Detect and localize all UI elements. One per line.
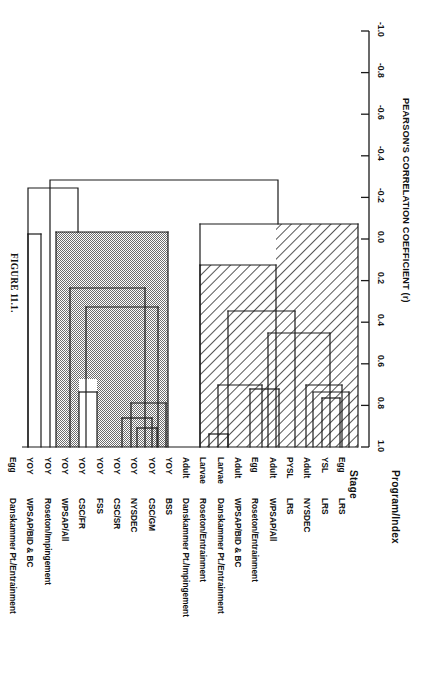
figure-container: -1.0 -0.8 -0.6 -0.4 -0.2 0.0 0.2 0.4 0.6… bbox=[0, 0, 425, 683]
axis-group bbox=[361, 31, 369, 447]
column-header-stage: Stage bbox=[348, 470, 358, 499]
leaf-program-label: BSS bbox=[165, 498, 173, 515]
tick-label: 0.0 bbox=[376, 231, 385, 243]
leaf-program-label: Roseton/Entrainment bbox=[199, 498, 207, 582]
column-header-program: Program/Index bbox=[390, 470, 400, 544]
leaf-program-label: NYSDEC bbox=[303, 498, 311, 533]
tick-label: -0.2 bbox=[376, 188, 385, 203]
tick-label: -0.8 bbox=[376, 63, 385, 78]
leaf-stage-label: YOY bbox=[165, 457, 173, 475]
tick-label: 0.4 bbox=[376, 314, 385, 326]
leaf-stage-label: YOY bbox=[43, 457, 51, 475]
leaf-stage-label: Egg bbox=[251, 457, 259, 473]
leaf-stage-label: YOY bbox=[113, 457, 121, 475]
cluster-fill-white-gaps bbox=[79, 379, 97, 447]
tick-label: 0.2 bbox=[376, 272, 385, 284]
leaf-stage-label: YSL bbox=[320, 457, 328, 473]
dendrogram-plot bbox=[0, 0, 425, 683]
leaf-stage-label: YOY bbox=[78, 457, 86, 475]
leaf-stage-label: YOY bbox=[61, 457, 69, 475]
leaf-program-label: WPSAP/BID & BC bbox=[26, 498, 34, 568]
leaf-program-label: WPSAP/All bbox=[268, 498, 276, 541]
leaf-program-label: Roseton/Impingement bbox=[43, 498, 51, 585]
tick-label: -0.4 bbox=[376, 146, 385, 161]
leaf-program-label: CSC/GM bbox=[147, 498, 155, 531]
tick-label: -1.0 bbox=[376, 22, 385, 37]
leaf-program-label: LRS bbox=[286, 498, 294, 515]
axis-ticks bbox=[361, 31, 369, 447]
leaf-stage-label: Adult bbox=[182, 457, 190, 478]
leaf-stage-label: PYSL bbox=[286, 457, 294, 479]
leaf-stage-label: Adult bbox=[268, 457, 276, 478]
leaf-stage-label: Larvae bbox=[216, 457, 224, 484]
leaf-program-label: LRS bbox=[338, 498, 346, 515]
leaf-program-label: CSC/SR bbox=[113, 498, 121, 529]
leaf-program-label: Danskammer Pt./Entrainment bbox=[9, 498, 17, 614]
leaf-program-label: WPSAP/BID & BC bbox=[234, 498, 242, 568]
leaf-program-label: Danskammer Pt./Impingement bbox=[182, 498, 190, 617]
leaf-program-label: FSS bbox=[95, 498, 103, 514]
tick-label: 0.8 bbox=[376, 397, 385, 409]
tick-label: -0.6 bbox=[376, 105, 385, 120]
leaf-stage-label: YOY bbox=[147, 457, 155, 475]
leaf-program-label: CSC/FR bbox=[78, 498, 86, 529]
leaf-program-label: WPSAP/All bbox=[61, 498, 69, 541]
leaf-stage-label: Egg bbox=[338, 457, 346, 473]
leaf-program-label: Danskammer Pt./Entrainment bbox=[216, 498, 224, 614]
leaf-stage-label: Adult bbox=[303, 457, 311, 478]
axis-title: PEARSON'S CORRELATION COEFFICIENT (r) bbox=[401, 98, 410, 303]
leaf-stage-label: YOY bbox=[26, 457, 34, 475]
tick-label: 1.0 bbox=[376, 440, 385, 452]
leaf-program-label: Roseton/Entrainment bbox=[251, 498, 259, 582]
leaf-stage-label: YOY bbox=[95, 457, 103, 475]
tick-label: 0.6 bbox=[376, 355, 385, 367]
leaf-stage-label: Egg bbox=[9, 457, 17, 473]
cluster-fill-grey bbox=[56, 232, 168, 447]
leaf-stage-label: YOY bbox=[130, 457, 138, 475]
leaf-program-label: NYSDEC bbox=[130, 498, 138, 533]
leaf-program-label: LRS bbox=[320, 498, 328, 515]
leaf-stage-label: Larvae bbox=[199, 457, 207, 484]
leaf-stage-label: Adult bbox=[234, 457, 242, 478]
figure-caption: FIGURE 11.1. bbox=[9, 253, 18, 312]
